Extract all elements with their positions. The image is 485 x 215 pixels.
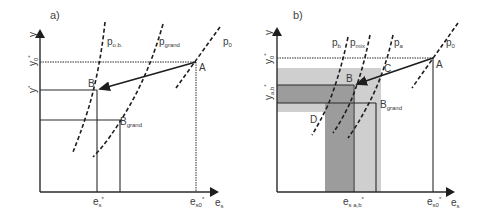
y-axis-label: y	[27, 32, 38, 37]
arrow-a-to-b	[100, 62, 196, 89]
panel-b: b) y y0* ya,b* es a,b*	[263, 9, 460, 209]
point-bgrand-label: Bgrand	[120, 116, 142, 128]
svg-text:y*: y*	[27, 85, 38, 93]
svg-text:ya,b*: ya,b*	[263, 84, 275, 100]
es0-star-label: es0*	[427, 196, 442, 208]
point-b-label: B	[88, 78, 95, 89]
curve-p0	[412, 23, 458, 88]
panel-a-label: a)	[50, 9, 60, 21]
panel-a: a) y y0* y* es* es0* es po.b. pg	[27, 9, 233, 209]
label-pb: pb	[332, 37, 342, 49]
label-pa: pa	[394, 37, 404, 49]
es0-star-label: es0*	[190, 196, 205, 208]
esab-star-label: es a,b*	[343, 196, 365, 208]
y0-star-label: y0*	[263, 53, 275, 64]
yab-star-label: ya,b*	[263, 84, 275, 100]
x-axis-arrow-icon	[210, 187, 219, 197]
point-b-label: B	[346, 73, 353, 84]
label-p0: p0	[446, 37, 456, 49]
label-p-grand: pgrand	[159, 36, 180, 48]
x-axis-arrow-icon	[446, 187, 455, 197]
es-star-label: es*	[93, 196, 105, 208]
point-bgrand-label: Bgrand	[380, 99, 402, 111]
dark-horizontal-band	[277, 85, 353, 103]
svg-text:y0*: y0*	[27, 55, 39, 66]
curve-p-grand	[93, 24, 163, 157]
label-p0: p0	[223, 36, 233, 48]
curve-p0	[176, 27, 220, 88]
diagram-figure: a) y y0* y* es* es0* es po.b. pg	[0, 0, 485, 215]
panel-b-label: b)	[293, 9, 303, 21]
y-star-label: y*	[27, 85, 38, 93]
label-pmix: pmix	[350, 37, 365, 49]
y0-star-label: y0*	[27, 55, 39, 66]
point-c-label: C	[384, 63, 391, 74]
label-p-ob: po.b.	[107, 36, 123, 48]
x-axis-label: es	[451, 197, 460, 209]
point-a-label: A	[436, 59, 443, 70]
svg-text:y0*: y0*	[263, 53, 275, 64]
y-axis-label: y	[263, 30, 274, 35]
x-axis-label: es	[215, 197, 224, 209]
point-a-label: A	[199, 62, 206, 73]
point-d-label: D	[310, 114, 317, 125]
